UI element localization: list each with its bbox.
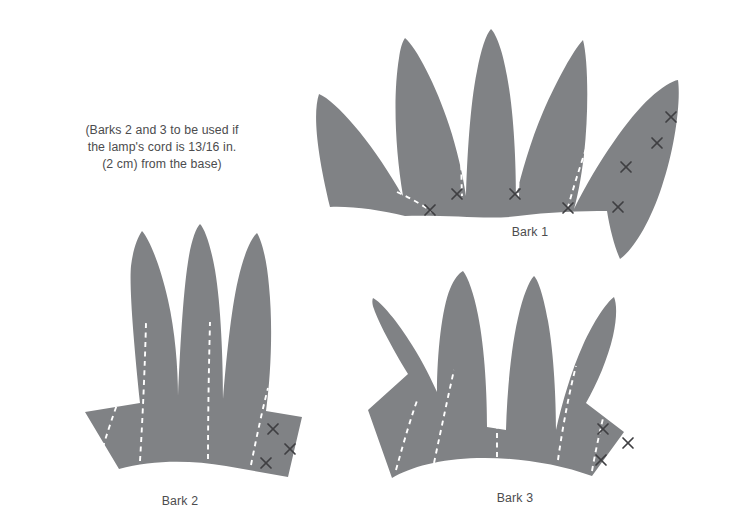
bark-3-x-mark-2: [623, 438, 633, 448]
bark-3-outline: [368, 271, 624, 478]
pattern-sheet: .shape { fill: #808285; } .fold { fill: …: [0, 0, 735, 529]
piece-label-bark-2: Bark 2: [105, 494, 255, 508]
bark-2-piece: [85, 224, 302, 477]
pattern-illustration: .shape { fill: #808285; } .fold { fill: …: [0, 0, 735, 529]
piece-label-bark-1: Bark 1: [455, 225, 605, 239]
usage-note: (Barks 2 and 3 to be used if the lamp's …: [52, 122, 272, 173]
bark-2-outline: [85, 224, 302, 477]
piece-label-bark-3: Bark 3: [440, 491, 590, 505]
bark-3-piece: [368, 271, 633, 478]
